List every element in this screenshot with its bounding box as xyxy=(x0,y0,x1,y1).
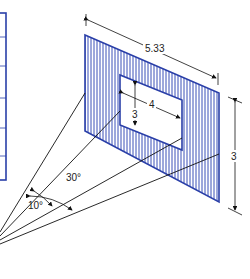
inner-width-label: 4 xyxy=(149,99,155,110)
outer-height-label: 3 xyxy=(231,151,237,162)
inner-height-label: 3 xyxy=(132,109,138,120)
angle-outer-label: 30° xyxy=(66,172,81,183)
outer-width-label: 5.33 xyxy=(145,43,165,54)
projection-diagram: 30° 10° 5.33 3 4 3 xyxy=(0,0,250,279)
left-grid-panel xyxy=(0,13,6,180)
hatched-frame xyxy=(85,35,219,202)
angle-inner-label: 10° xyxy=(28,200,43,211)
